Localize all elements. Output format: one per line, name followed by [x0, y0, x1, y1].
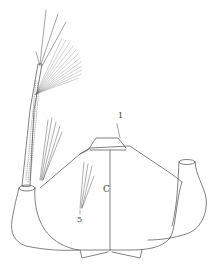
segment-label-c: C — [103, 185, 110, 194]
antenna-shaft — [22, 64, 42, 186]
central-plate-outline — [40, 146, 182, 188]
seta-label-5: 5 — [77, 216, 82, 224]
plumose-fan — [36, 38, 82, 94]
morphology-illustration — [0, 0, 213, 268]
lower-setae-bundle — [40, 118, 62, 180]
seta-1 — [117, 124, 120, 138]
left-base-lobe — [12, 188, 78, 250]
apical-setae — [36, 10, 66, 66]
setae-5 — [80, 162, 94, 214]
right-socket — [179, 160, 195, 165]
seta-label-1: 1 — [118, 112, 123, 120]
right-base-lobe — [148, 162, 206, 240]
